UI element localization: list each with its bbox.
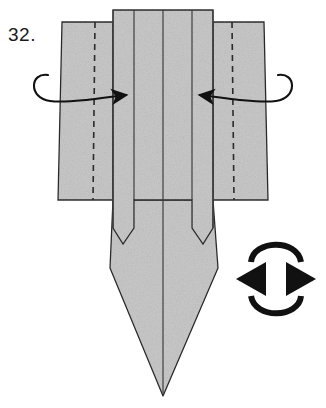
- left-flap-panel: [58, 22, 113, 200]
- right-flap-panel: [213, 22, 268, 200]
- turn-over-arrowhead-left: [236, 262, 266, 296]
- turn-over-symbol: [236, 245, 316, 314]
- turn-over-arc-top: [251, 245, 301, 262]
- turn-over-arrowhead-right: [286, 262, 316, 296]
- origami-figure: [0, 0, 326, 408]
- turn-over-arc-bottom: [251, 296, 301, 313]
- origami-diagram: 32.: [0, 0, 326, 408]
